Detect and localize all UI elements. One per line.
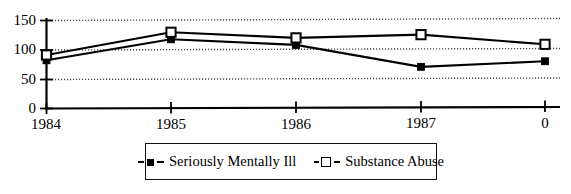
gridline-150 [46, 19, 560, 21]
data-point-marker [166, 28, 175, 37]
x-tick-label-1984: 1984 [16, 117, 76, 132]
gridline-100 [46, 49, 560, 51]
x-tick-label-1986: 1986 [266, 117, 326, 132]
chart-legend: Seriously Mentally Ill Substance Abuse [145, 143, 437, 180]
filled-square-marker-icon [138, 156, 164, 168]
line-chart: 150 100 50 0 1984 1985 1986 1987 0 Serio… [0, 0, 571, 194]
gridline-50 [46, 78, 560, 80]
data-point-marker [291, 33, 300, 42]
y-tick-label-150: 150 [2, 13, 36, 28]
legend-label-seriously-mentally-ill: Seriously Mentally Ill [169, 154, 296, 169]
x-tick-label-0: 0 [515, 116, 571, 131]
data-point-marker [418, 63, 425, 70]
gridlines [46, 19, 560, 80]
x-axis-line [45, 107, 560, 109]
y-tick-label-50: 50 [2, 72, 36, 87]
data-point-marker [42, 50, 51, 59]
x-tick-label-1985: 1985 [141, 117, 201, 132]
legend-item-seriously-mentally-ill: Seriously Mentally Ill [138, 154, 296, 169]
legend-label-substance-abuse: Substance Abuse [345, 154, 444, 169]
open-square-marker-icon [314, 156, 340, 168]
x-tick-label-1987: 1987 [391, 116, 451, 131]
legend-item-substance-abuse: Substance Abuse [314, 154, 444, 169]
y-tick-label-0: 0 [2, 101, 36, 116]
data-point-marker [540, 40, 549, 49]
data-point-marker [416, 30, 425, 39]
y-tick-label-100: 100 [2, 42, 36, 57]
data-point-marker [542, 58, 549, 65]
